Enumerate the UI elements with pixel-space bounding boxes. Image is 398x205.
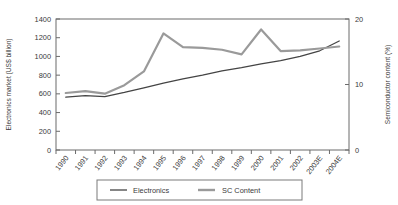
x-axis-tick-label: 2003E bbox=[304, 154, 324, 176]
x-axis-tick-label: 1997 bbox=[190, 154, 207, 173]
x-axis-tick-label: 2004E bbox=[324, 154, 344, 176]
right-axis-title: Semiconductor content (%) bbox=[384, 45, 392, 125]
line-chart: 0200400600800100012001400010201990199119… bbox=[0, 0, 398, 205]
left-axis-tick-label: 1200 bbox=[35, 33, 51, 42]
chart-container: 0200400600800100012001400010201990199119… bbox=[0, 0, 398, 205]
legend-label-electronics: Electronics bbox=[133, 186, 169, 195]
x-axis-tick-label: 2001 bbox=[268, 154, 285, 173]
x-axis-tick-label: 1992 bbox=[92, 154, 109, 173]
x-axis-tick-label: 2000 bbox=[249, 154, 266, 173]
right-axis-tick-label: 20 bbox=[355, 15, 363, 24]
x-axis-tick-label: 1995 bbox=[151, 154, 168, 173]
x-axis-tick-label: 1996 bbox=[171, 154, 188, 173]
left-axis-title: Electronics market (US$ billion) bbox=[5, 39, 13, 131]
left-axis-tick-label: 600 bbox=[39, 89, 51, 98]
right-axis-tick-label: 10 bbox=[355, 80, 363, 89]
left-axis-tick-label: 800 bbox=[39, 71, 51, 80]
plot-area-frame bbox=[56, 19, 349, 150]
x-axis-tick-label: 1994 bbox=[131, 154, 148, 173]
left-axis-tick-label: 400 bbox=[39, 108, 51, 117]
left-axis-tick-label: 1000 bbox=[35, 52, 51, 61]
left-axis-tick-label: 0 bbox=[47, 146, 51, 155]
x-axis-tick-label: 1999 bbox=[229, 154, 246, 173]
legend-label-sc-content: SC Content bbox=[222, 186, 260, 195]
x-axis-tick-label: 1993 bbox=[112, 154, 129, 173]
x-axis-tick-label: 1990 bbox=[53, 154, 70, 173]
series-line-sc-content bbox=[66, 29, 339, 93]
right-axis-tick-label: 0 bbox=[355, 146, 359, 155]
left-axis-tick-label: 1400 bbox=[35, 15, 51, 24]
x-axis-tick-label: 1991 bbox=[73, 154, 90, 173]
x-axis-tick-label: 1998 bbox=[210, 154, 227, 173]
x-axis-tick-label: 2002 bbox=[288, 154, 305, 173]
left-axis-tick-label: 200 bbox=[39, 127, 51, 136]
